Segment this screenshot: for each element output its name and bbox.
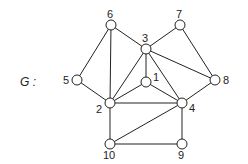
node-label-5: 5 [63, 74, 69, 86]
edge-4-10 [110, 103, 182, 144]
node-2 [105, 98, 115, 108]
edge-1-4 [146, 82, 182, 103]
edge-8-4 [182, 80, 215, 103]
node-label-8: 8 [223, 74, 229, 86]
node-10 [105, 139, 115, 149]
edge-3-2 [110, 49, 146, 103]
node-label-7: 7 [176, 8, 182, 20]
edge-6-3 [111, 25, 146, 49]
node-label-1: 1 [153, 71, 159, 83]
node-3 [141, 44, 151, 54]
node-label-10: 10 [103, 149, 115, 161]
node-label-3: 3 [142, 32, 148, 44]
node-label-6: 6 [107, 8, 113, 20]
edge-1-2 [110, 82, 146, 103]
node-4 [177, 98, 187, 108]
node-label-2: 2 [96, 103, 102, 115]
node-9 [177, 139, 187, 149]
edge-6-2 [110, 25, 111, 103]
edge-6-5 [77, 25, 111, 80]
node-5 [72, 75, 82, 85]
node-label-9: 9 [178, 149, 184, 161]
edge-7-3 [146, 25, 180, 49]
graph-name-label: G : [20, 75, 36, 89]
edge-5-2 [77, 80, 110, 103]
node-8 [210, 75, 220, 85]
node-7 [175, 20, 185, 30]
node-label-4: 4 [189, 102, 195, 114]
node-1 [141, 77, 151, 87]
graph-diagram: G : 12345678910 [0, 0, 248, 164]
node-6 [106, 20, 116, 30]
graph-nodes: 12345678910 [63, 8, 229, 161]
